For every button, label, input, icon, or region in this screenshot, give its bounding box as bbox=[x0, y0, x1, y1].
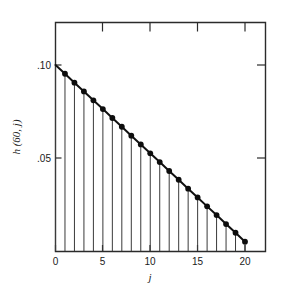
right-axis-ticks bbox=[257, 65, 266, 158]
data-point-marker bbox=[91, 97, 97, 103]
data-point-marker bbox=[233, 230, 239, 236]
x-tick-label-0: 0 bbox=[53, 256, 59, 267]
x-axis-title: j bbox=[146, 271, 151, 283]
y-tick-label-005: .05 bbox=[37, 153, 51, 164]
data-point-marker bbox=[147, 150, 153, 156]
x-tick-label-15: 15 bbox=[192, 256, 204, 267]
y-tick-labels: .10 .05 bbox=[37, 60, 51, 164]
data-point-marker bbox=[138, 142, 144, 148]
data-point-marker bbox=[242, 239, 248, 245]
data-point-marker bbox=[81, 89, 87, 95]
x-tick-labels: 0 5 10 15 20 bbox=[53, 256, 251, 267]
data-point-marker bbox=[223, 221, 229, 227]
data-point-marker bbox=[157, 159, 163, 165]
x-tick-label-5: 5 bbox=[100, 256, 106, 267]
data-point-marker bbox=[214, 212, 220, 218]
data-point-marker bbox=[176, 177, 182, 183]
data-point-marker bbox=[195, 195, 201, 201]
y-axis-title: h (60, j) bbox=[10, 119, 23, 154]
data-point-marker bbox=[166, 168, 172, 174]
x-tick-label-20: 20 bbox=[239, 256, 251, 267]
data-point-marker bbox=[119, 124, 125, 130]
data-point-marker bbox=[72, 80, 78, 86]
data-point-marker bbox=[62, 71, 68, 77]
data-point-marker bbox=[128, 133, 134, 139]
data-point-marker bbox=[100, 106, 106, 112]
data-point-marker bbox=[204, 203, 210, 209]
x-tick-label-10: 10 bbox=[144, 256, 156, 267]
stem-plot-canvas: 0 5 10 15 20 .10 .05 j h (60, j) bbox=[0, 0, 301, 289]
frame-box bbox=[56, 23, 266, 252]
data-point-marker bbox=[109, 115, 115, 121]
data-point-marker bbox=[185, 186, 191, 192]
chart-figure: 0 5 10 15 20 .10 .05 j h (60, j) bbox=[0, 0, 301, 289]
plot-frame bbox=[56, 23, 266, 252]
left-axis-ticks bbox=[56, 65, 62, 158]
top-axis-ticks bbox=[103, 23, 246, 32]
y-tick-label-010: .10 bbox=[37, 60, 51, 71]
